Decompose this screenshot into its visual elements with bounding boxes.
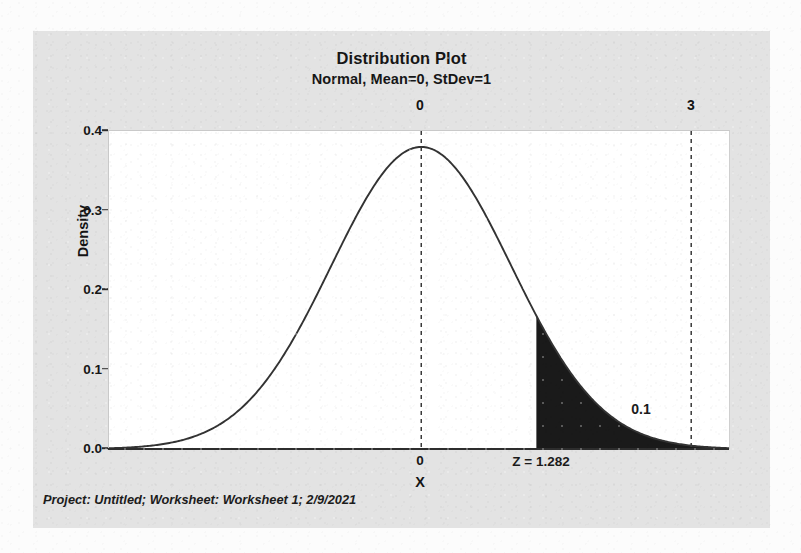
reference-line-label-mean: 0 bbox=[416, 97, 424, 113]
y-tick-label: 0.1 bbox=[66, 361, 102, 376]
x-axis-line bbox=[108, 448, 729, 450]
x-axis-title: X bbox=[415, 474, 425, 490]
x-tick-label: 0 bbox=[416, 453, 424, 468]
figure-title-block: Distribution Plot Normal, Mean=0, StDev=… bbox=[33, 49, 770, 89]
distribution-plot-figure: Distribution Plot Normal, Mean=0, StDev=… bbox=[33, 31, 770, 528]
shaded-area-probability-label: 0.1 bbox=[631, 401, 650, 417]
y-tick-label: 0.3 bbox=[66, 202, 102, 217]
z-value-annotation: Z = 1.282 bbox=[512, 454, 569, 469]
reference-line-label-three: 3 bbox=[687, 97, 695, 113]
chart-subtitle: Normal, Mean=0, StDev=1 bbox=[33, 70, 770, 88]
figure-footer-note: Project: Untitled; Worksheet: Worksheet … bbox=[43, 492, 356, 507]
y-tick-label: 0.0 bbox=[66, 441, 102, 456]
y-tick-label: 0.4 bbox=[66, 123, 102, 138]
y-axis-ticks: 0.4 0.3 0.2 0.1 0.0 bbox=[57, 31, 102, 528]
page-title: Distribution Plot bbox=[33, 49, 770, 68]
y-tick-label: 0.2 bbox=[66, 282, 102, 297]
screenshot-page: Distribution Plot Normal, Mean=0, StDev=… bbox=[0, 0, 801, 553]
plot-area: 0.1 bbox=[108, 130, 730, 449]
